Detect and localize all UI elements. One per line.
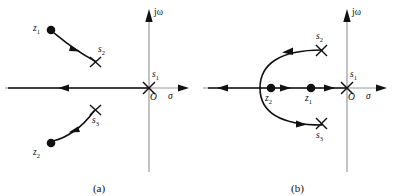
- caption-b: (b): [198, 182, 397, 194]
- panel-a: jω σ O s1 s2 s3 z1 z2 (a): [0, 0, 198, 196]
- branch-real-axis: [208, 84, 346, 91]
- x-marker-s2: [90, 57, 101, 67]
- zero-label-z2-a: z2: [33, 148, 40, 159]
- x-marker-s3: [90, 105, 101, 115]
- caption-a: (a): [0, 182, 198, 194]
- zero-label-z1-a: z1: [33, 24, 40, 35]
- zero-label-z2-b: z2: [265, 94, 272, 105]
- pole-label-s3-b: s3: [316, 131, 323, 142]
- axis-label-jomega-a: jω: [154, 8, 163, 18]
- branch-lower: [53, 111, 94, 141]
- dot-marker-z2: [267, 84, 276, 93]
- branch-upper: [53, 32, 95, 61]
- branch-upper: [260, 48, 322, 89]
- x-marker-s3: [316, 118, 327, 129]
- pole-label-s3-a: s3: [92, 116, 99, 127]
- branch-real-axis: [8, 84, 148, 91]
- zero-label-z1-b: z1: [305, 94, 312, 105]
- axis-label-sigma-b: σ: [366, 92, 371, 102]
- pole-label-s1-a: s1: [152, 70, 159, 81]
- origin-label-b: O: [348, 93, 355, 103]
- pole-label-s2-a: s2: [98, 45, 105, 56]
- axis-label-jomega-b: jω: [352, 8, 361, 18]
- pole-label-s2-b: s2: [316, 32, 323, 43]
- origin-label-a: O: [150, 93, 157, 103]
- root-locus-figure: jω σ O s1 s2 s3 z1 z2 (a): [0, 0, 397, 196]
- dot-marker-z1: [307, 84, 316, 93]
- panel-b: jω σ O s1 s2 s3 z2 z1 (b): [198, 0, 397, 196]
- dot-marker-z2: [47, 139, 56, 148]
- dot-marker-z1: [47, 26, 56, 35]
- pole-label-s1-b: s1: [350, 70, 357, 81]
- axis-label-sigma-a: σ: [168, 92, 173, 102]
